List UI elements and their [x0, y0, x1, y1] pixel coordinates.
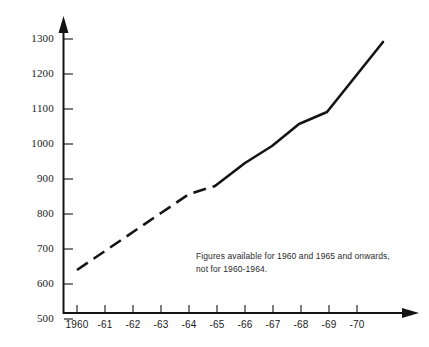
- annotation-line-2: not for 1960-1964.: [196, 263, 396, 276]
- line-chart: 1300 1200 1100 1000 900 800 700 600 500 …: [0, 0, 429, 347]
- ytick-label-900: 900: [14, 172, 54, 184]
- ytick-label-700: 700: [14, 242, 54, 254]
- ytick-label-1200: 1200: [14, 67, 54, 79]
- ytick-label-1300: 1300: [14, 32, 54, 44]
- ytick-label-1100: 1100: [14, 102, 54, 114]
- y-axis: [59, 16, 69, 314]
- x-axis: [64, 308, 420, 318]
- x-axis-ticks: [77, 305, 357, 313]
- ytick-label-500: 500: [14, 312, 54, 324]
- series-observed-solid: [215, 42, 383, 186]
- xtick-label-70: -70: [337, 319, 377, 330]
- y-axis-ticks: [64, 39, 73, 319]
- series-interpolated-dashed: [77, 186, 215, 270]
- chart-canvas: [0, 0, 429, 347]
- annotation-line-1: Figures available for 1960 and 1965 and …: [196, 250, 396, 263]
- ytick-label-800: 800: [14, 207, 54, 219]
- chart-annotation-note: Figures available for 1960 and 1965 and …: [196, 250, 396, 276]
- ytick-label-1000: 1000: [14, 137, 54, 149]
- ytick-label-600: 600: [14, 277, 54, 289]
